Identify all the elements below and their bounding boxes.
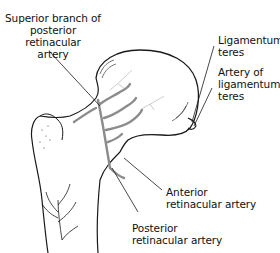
shaft-vessels — [42, 184, 78, 240]
label-line: artery — [4, 48, 102, 60]
label-line: ligamentum — [218, 78, 280, 90]
label-artery-of-ligamentum-teres: Artery of ligamentum teres — [218, 66, 280, 102]
label-line: Superior branch of — [4, 12, 102, 24]
label-line: Anterior — [166, 186, 256, 198]
label-line: Artery of — [218, 66, 280, 78]
retinacular-arteries — [74, 84, 142, 178]
femoral-head-outline — [96, 50, 198, 152]
label-line: Posterior — [132, 222, 222, 234]
label-line: teres — [218, 90, 280, 102]
label-ligamentum-teres: Ligamentum teres — [218, 34, 280, 58]
label-anterior-retinacular-artery: Anterior retinacular artery — [166, 186, 256, 210]
femoral-head-blood-supply-diagram: Superior branch of posterior retinacular… — [0, 0, 280, 253]
leader-ligamentum-teres — [192, 46, 214, 122]
femoral-shaft-outline — [97, 152, 120, 253]
label-superior-branch-posterior-retinacular-artery: Superior branch of posterior retinacular… — [4, 12, 102, 60]
label-posterior-retinacular-artery: Posterior retinacular artery — [132, 222, 222, 246]
leader-superior-branch — [50, 52, 100, 106]
label-line: Ligamentum — [218, 34, 280, 46]
label-line: retinacular artery — [132, 234, 222, 246]
label-line: teres — [218, 46, 280, 58]
leader-posterior — [112, 168, 138, 212]
label-line: posterior retinacular — [4, 24, 102, 48]
greater-trochanter-outline — [31, 116, 48, 253]
trochanter-stipple — [40, 126, 51, 149]
label-line: retinacular artery — [166, 198, 256, 210]
leader-anterior — [124, 158, 162, 190]
